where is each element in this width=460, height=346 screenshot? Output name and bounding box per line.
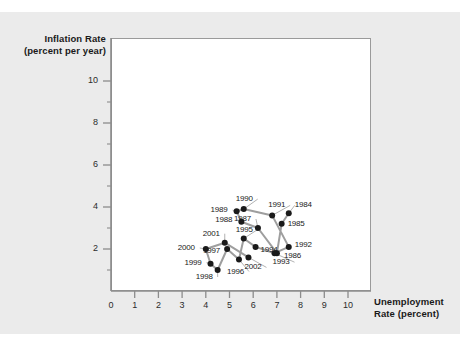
point-label-1984: 1984 xyxy=(295,200,312,209)
data-point-1995 xyxy=(241,236,247,242)
x-tick-label-2: 2 xyxy=(148,300,168,310)
x-tick-label-0: 0 xyxy=(101,300,121,310)
y-tick-label-4: 4 xyxy=(76,201,98,211)
x-tick-label-6: 6 xyxy=(243,300,263,310)
y-tick-label-2: 2 xyxy=(76,243,98,253)
tick-marks xyxy=(103,81,348,298)
point-label-2000: 2000 xyxy=(178,243,195,252)
data-point-2001 xyxy=(222,240,228,246)
x-tick-label-7: 7 xyxy=(267,300,287,310)
data-point-2002 xyxy=(245,254,251,260)
data-point-1990 xyxy=(241,206,247,212)
x-tick-label-1: 1 xyxy=(125,300,145,310)
data-point-1984 xyxy=(286,210,292,216)
data-point-1998 xyxy=(215,267,221,273)
point-label-2002: 2002 xyxy=(244,262,261,271)
point-label-1993: 1993 xyxy=(273,257,290,266)
data-point-1999 xyxy=(208,261,214,267)
x-tick-label-8: 8 xyxy=(291,300,311,310)
data-point-1987 xyxy=(255,225,261,231)
x-tick-label-3: 3 xyxy=(172,300,192,310)
phillips-curve-figure: Inflation Rate (percent per year) Unempl… xyxy=(0,0,460,346)
point-label-1989: 1989 xyxy=(211,205,228,214)
x-tick-label-5: 5 xyxy=(220,300,240,310)
y-tick-label-8: 8 xyxy=(76,117,98,127)
data-point-1997 xyxy=(224,246,230,252)
y-tick-label-10: 10 xyxy=(76,75,98,85)
point-label-1996: 1996 xyxy=(227,267,244,276)
point-label-1998: 1998 xyxy=(196,272,213,281)
point-label-1988: 1988 xyxy=(215,215,232,224)
data-point-1994 xyxy=(253,244,259,250)
data-point-1992 xyxy=(286,244,292,250)
point-label-1991: 1991 xyxy=(268,200,285,209)
point-label-1994: 1994 xyxy=(261,245,278,254)
point-label-1997: 1997 xyxy=(203,246,220,255)
point-label-1992: 1992 xyxy=(295,240,312,249)
x-tick-label-9: 9 xyxy=(314,300,334,310)
data-point-1991 xyxy=(269,212,275,218)
chart-canvas xyxy=(0,0,460,346)
point-label-1995: 1995 xyxy=(236,225,253,234)
x-tick-label-10: 10 xyxy=(338,300,358,310)
point-label-1987: 1987 xyxy=(234,214,251,223)
point-label-1999: 1999 xyxy=(185,258,202,267)
point-label-2001: 2001 xyxy=(203,229,220,238)
x-tick-label-4: 4 xyxy=(196,300,216,310)
y-tick-label-6: 6 xyxy=(76,159,98,169)
data-point-1996 xyxy=(236,257,242,263)
point-label-1990: 1990 xyxy=(236,194,253,203)
data-point-1985 xyxy=(279,221,285,227)
point-label-1985: 1985 xyxy=(288,219,305,228)
